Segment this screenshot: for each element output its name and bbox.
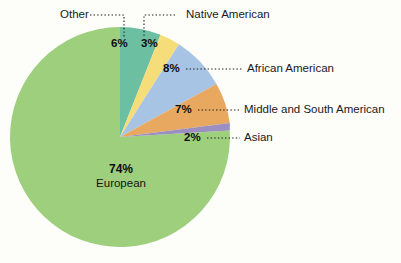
percent-african-american: 8%: [163, 62, 180, 74]
label-african-american: African American: [247, 62, 334, 75]
label-other: Other: [60, 8, 89, 21]
label-middle-south-american: Middle and South American: [244, 103, 385, 116]
percent-asian: 2%: [184, 131, 201, 143]
percent-native-american: 3%: [141, 37, 158, 49]
percent-middle-south-american: 7%: [175, 103, 192, 115]
label-native-american: Native American: [186, 8, 270, 21]
label-european-group: 74% European: [76, 162, 166, 189]
label-asian: Asian: [244, 131, 273, 144]
percent-other: 6%: [111, 37, 128, 49]
percent-european: 74%: [76, 162, 166, 176]
label-european: European: [76, 177, 166, 189]
pie-chart-figure: Other Native American African American M…: [0, 0, 401, 263]
